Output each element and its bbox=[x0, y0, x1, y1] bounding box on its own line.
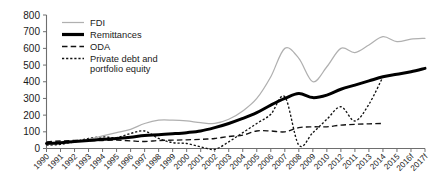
y-tick-label: 600 bbox=[23, 43, 40, 54]
legend-label-remittances: Remittances bbox=[90, 30, 142, 40]
legend-label-oda: ODA bbox=[90, 42, 111, 52]
y-tick-label: 400 bbox=[23, 76, 40, 87]
legend-item-oda: ODA bbox=[62, 42, 111, 52]
x-tick-label: 2017f bbox=[409, 152, 430, 173]
y-tick-label: 200 bbox=[23, 110, 40, 121]
line-chart: 0100200300400500600700800 19901991199219… bbox=[0, 0, 432, 189]
y-tick-label: 700 bbox=[23, 26, 40, 37]
y-tick-label: 800 bbox=[23, 10, 40, 21]
legend-item-private-debt-and-portfolio-equity: Private debt and portfolio equity bbox=[62, 54, 158, 75]
x-axis-tick-labels: 1990199119921993199419951996199719981999… bbox=[32, 152, 430, 173]
y-axis: 0100200300400500600700800 bbox=[23, 10, 46, 155]
legend-label-fdi: FDI bbox=[90, 18, 105, 28]
y-axis-tick-labels: 0100200300400500600700800 bbox=[23, 10, 40, 155]
chart-legend: FDI Remittances ODA Private debt and por… bbox=[62, 18, 158, 75]
x-axis: 1990199119921993199419951996199719981999… bbox=[32, 149, 430, 173]
legend-item-remittances: Remittances bbox=[62, 30, 142, 40]
legend-label-private-debt-line1: Private debt and bbox=[90, 54, 158, 64]
y-tick-label: 0 bbox=[34, 143, 40, 154]
legend-label-private-debt-line2: portfolio equity bbox=[90, 64, 151, 74]
y-tick-label: 500 bbox=[23, 60, 40, 71]
legend-item-fdi: FDI bbox=[62, 18, 105, 28]
y-tick-label: 100 bbox=[23, 126, 40, 137]
chart-container: 0100200300400500600700800 19901991199219… bbox=[0, 0, 432, 189]
y-tick-label: 300 bbox=[23, 93, 40, 104]
